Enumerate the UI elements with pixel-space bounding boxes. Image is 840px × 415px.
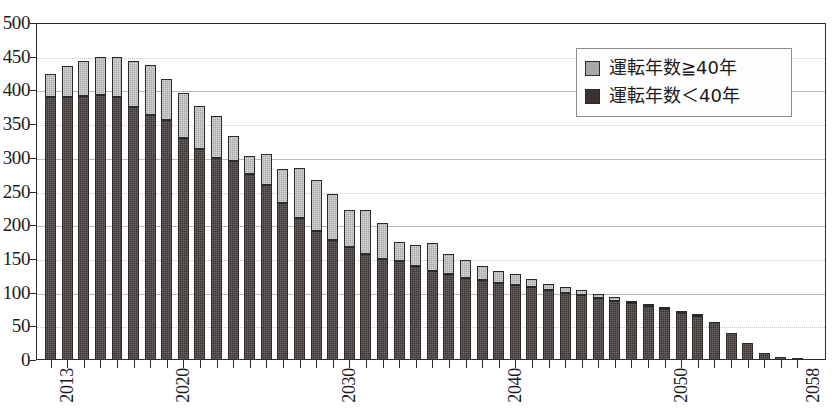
y-axis: 050100150200250300350400450500 — [0, 0, 34, 415]
bar-2022[interactable] — [194, 106, 205, 360]
bar-2048[interactable] — [626, 301, 637, 360]
bar-2037[interactable] — [443, 254, 454, 360]
bar-segment-ge40 — [493, 271, 504, 282]
bar-2051[interactable] — [676, 312, 687, 360]
bar-2043[interactable] — [543, 284, 554, 360]
bar-2040[interactable] — [493, 271, 504, 360]
legend-swatch-lt40 — [585, 89, 600, 104]
bar-segment-lt40 — [493, 283, 504, 361]
y-tick-label: 350 — [3, 114, 30, 133]
bar-2050[interactable] — [659, 307, 670, 360]
bar-2041[interactable] — [510, 274, 521, 360]
bar-segment-ge40 — [477, 266, 488, 281]
legend-item-ge40: 運転年数≧40年 — [585, 54, 783, 82]
x-axis-labels: 201320202030204020502058 — [0, 360, 840, 415]
legend-swatch-ge40 — [585, 61, 600, 76]
bar-2039[interactable] — [477, 266, 488, 360]
bar-segment-ge40 — [659, 307, 670, 309]
x-tick-label: 2020 — [174, 368, 192, 403]
bar-segment-ge40 — [45, 74, 56, 97]
bar-2045[interactable] — [576, 290, 587, 360]
bar-segment-ge40 — [277, 169, 288, 203]
legend-item-lt40: 運転年数＜40年 — [585, 82, 783, 110]
bar-2033[interactable] — [377, 223, 388, 360]
bar-2053[interactable] — [709, 322, 720, 360]
bar-2018[interactable] — [128, 61, 139, 360]
bar-segment-lt40 — [277, 203, 288, 360]
bar-2017[interactable] — [112, 57, 123, 360]
bar-segment-lt40 — [609, 301, 620, 360]
y-tick-label: 50 — [12, 316, 30, 335]
bar-segment-ge40 — [145, 65, 156, 114]
bar-segment-ge40 — [211, 116, 222, 158]
bar-2047[interactable] — [609, 297, 620, 360]
bar-2035[interactable] — [410, 245, 421, 360]
y-tick-label: 100 — [3, 283, 30, 302]
bar-2025[interactable] — [244, 156, 255, 360]
bar-segment-lt40 — [327, 240, 338, 360]
bar-2052[interactable] — [692, 316, 703, 360]
bar-segment-lt40 — [145, 115, 156, 360]
x-tick-label: 2040 — [506, 368, 524, 403]
bar-segment-ge40 — [78, 61, 89, 96]
bar-2055[interactable] — [742, 343, 753, 360]
bar-2024[interactable] — [228, 136, 239, 360]
bar-2034[interactable] — [394, 242, 405, 360]
bar-2029[interactable] — [311, 180, 322, 360]
bar-segment-lt40 — [360, 254, 371, 360]
bar-segment-lt40 — [726, 333, 737, 360]
bar-2016[interactable] — [95, 57, 106, 360]
bar-segment-ge40 — [327, 194, 338, 241]
bar-segment-ge40 — [194, 106, 205, 149]
bar-segment-lt40 — [676, 313, 687, 360]
bar-segment-ge40 — [410, 245, 421, 266]
bar-segment-ge40 — [609, 297, 620, 300]
bar-segment-lt40 — [128, 107, 139, 360]
bar-segment-ge40 — [344, 210, 355, 247]
bar-2049[interactable] — [643, 304, 654, 360]
bar-segment-lt40 — [211, 158, 222, 360]
bar-2023[interactable] — [211, 116, 222, 360]
bar-segment-lt40 — [45, 97, 56, 360]
bar-segment-lt40 — [78, 96, 89, 360]
bar-segment-lt40 — [112, 97, 123, 360]
bar-segment-ge40 — [128, 61, 139, 106]
bar-segment-lt40 — [294, 218, 305, 360]
stacked-bar-chart: 050100150200250300350400450500 201320202… — [0, 0, 840, 415]
bar-segment-ge40 — [692, 314, 703, 316]
bar-2056[interactable] — [759, 353, 770, 360]
bar-segment-lt40 — [261, 185, 272, 360]
bar-2027[interactable] — [277, 169, 288, 360]
bar-2019[interactable] — [145, 65, 156, 360]
bar-2038[interactable] — [460, 260, 471, 360]
bar-2020[interactable] — [161, 79, 172, 360]
bar-2054[interactable] — [726, 333, 737, 360]
bar-2032[interactable] — [360, 210, 371, 360]
bar-segment-lt40 — [692, 316, 703, 360]
bar-2014[interactable] — [62, 66, 73, 360]
bar-segment-ge40 — [526, 279, 537, 287]
bar-2013[interactable] — [45, 74, 56, 360]
bar-2031[interactable] — [344, 210, 355, 360]
bar-2026[interactable] — [261, 154, 272, 360]
y-tick-label: 250 — [3, 182, 30, 201]
bar-segment-ge40 — [377, 223, 388, 259]
bar-2028[interactable] — [294, 168, 305, 360]
bar-2044[interactable] — [560, 287, 571, 360]
bar-segment-lt40 — [593, 298, 604, 360]
bar-2021[interactable] — [178, 93, 189, 360]
bar-2042[interactable] — [526, 279, 537, 360]
bar-2036[interactable] — [427, 243, 438, 360]
bar-2046[interactable] — [593, 294, 604, 360]
bar-segment-lt40 — [643, 306, 654, 360]
bar-segment-lt40 — [410, 266, 421, 360]
bar-segment-lt40 — [460, 278, 471, 360]
bar-segment-ge40 — [261, 154, 272, 184]
bar-2015[interactable] — [78, 61, 89, 360]
y-tick-label: 150 — [3, 249, 30, 268]
bar-2030[interactable] — [327, 194, 338, 360]
bar-segment-lt40 — [510, 285, 521, 360]
bar-segment-lt40 — [709, 322, 720, 360]
y-tick-label: 300 — [3, 148, 30, 167]
bar-segment-ge40 — [676, 311, 687, 313]
